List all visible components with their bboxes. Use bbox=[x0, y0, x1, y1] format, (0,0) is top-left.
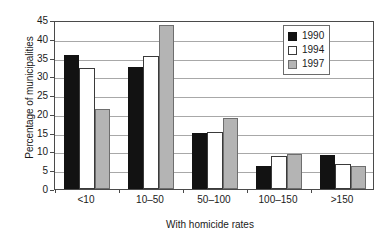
bar-1990-100–150 bbox=[256, 166, 272, 189]
bar-1994-10–50 bbox=[143, 56, 159, 189]
bar-1997->150 bbox=[351, 166, 367, 189]
bar-1990-10–50 bbox=[128, 67, 144, 189]
bar-1997-10–50 bbox=[159, 25, 175, 189]
y-tick-label: 5 bbox=[6, 166, 48, 176]
legend-label: 1994 bbox=[302, 45, 324, 55]
legend-item-1990: 1990 bbox=[288, 29, 324, 43]
y-tick-label: 35 bbox=[6, 54, 48, 64]
bar-1990->150 bbox=[320, 155, 336, 189]
bar-1990-<10 bbox=[64, 55, 80, 189]
bar-1997-100–150 bbox=[287, 154, 303, 189]
legend-swatch-icon bbox=[288, 46, 297, 55]
x-category-label: >150 bbox=[302, 194, 382, 205]
x-tick-mark bbox=[183, 189, 184, 193]
x-tick-mark bbox=[119, 189, 120, 193]
legend-item-1994: 1994 bbox=[288, 43, 324, 57]
y-tick-label: 30 bbox=[6, 72, 48, 82]
x-tick-mark bbox=[55, 189, 56, 193]
bar-1994-50–100 bbox=[207, 132, 223, 189]
legend-label: 1990 bbox=[302, 31, 324, 41]
legend-swatch-icon bbox=[288, 60, 297, 69]
y-tick-label: 0 bbox=[6, 185, 48, 195]
y-tick-label: 10 bbox=[6, 147, 48, 157]
x-tick-mark bbox=[247, 189, 248, 193]
bar-1994-<10 bbox=[79, 68, 95, 189]
legend-label: 1997 bbox=[302, 59, 324, 69]
y-tick-label: 25 bbox=[6, 91, 48, 101]
x-tick-mark bbox=[311, 189, 312, 193]
bar-1994->150 bbox=[335, 164, 351, 189]
x-axis-title: With homicide rates bbox=[40, 219, 380, 230]
bar-1994-100–150 bbox=[271, 156, 287, 189]
legend-item-1997: 1997 bbox=[288, 57, 324, 71]
bar-chart-figure: Percentage of municipalities 05101520253… bbox=[0, 0, 388, 240]
y-tick-label: 40 bbox=[6, 35, 48, 45]
chart-legend: 199019941997 bbox=[283, 25, 330, 75]
bar-1990-50–100 bbox=[192, 133, 208, 189]
y-tick-mark bbox=[50, 190, 54, 191]
bar-1997-50–100 bbox=[223, 118, 239, 189]
y-tick-label: 15 bbox=[6, 129, 48, 139]
legend-swatch-icon bbox=[288, 32, 297, 41]
y-tick-label: 20 bbox=[6, 110, 48, 120]
y-tick-label: 45 bbox=[6, 16, 48, 26]
bar-1997-<10 bbox=[95, 109, 111, 189]
